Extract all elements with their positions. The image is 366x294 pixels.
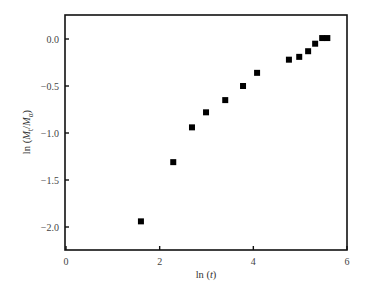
data-points <box>138 35 330 224</box>
data-point <box>138 218 144 224</box>
x-tick-label: 6 <box>345 256 350 267</box>
plot-frame <box>65 15 347 250</box>
data-point <box>305 48 311 54</box>
x-tick-label: 4 <box>251 256 256 267</box>
data-point <box>189 124 195 130</box>
x-axis: 0246 <box>64 246 350 267</box>
y-tick-label: −1.0 <box>41 128 59 139</box>
data-point <box>222 97 228 103</box>
data-point <box>324 35 330 41</box>
data-point <box>254 70 260 76</box>
y-tick-label: −2.0 <box>41 222 59 233</box>
x-tick-label: 2 <box>157 256 162 267</box>
x-tick-label: 0 <box>64 256 69 267</box>
y-tick-label: −1.5 <box>41 175 59 186</box>
data-point <box>203 109 209 115</box>
data-point <box>312 41 318 47</box>
y-tick-label: 0.0 <box>47 34 60 45</box>
x-axis-label: ln (t) <box>196 269 217 281</box>
y-tick-label: −0.5 <box>41 81 59 92</box>
data-point <box>240 83 246 89</box>
y-axis-label: ln (Mt/Mα) <box>21 109 35 154</box>
data-point <box>170 159 176 165</box>
data-point <box>286 57 292 63</box>
scatter-chart: 0246 0.0−0.5−1.0−1.5−2.0 ln (t) ln (Mt/M… <box>0 0 366 294</box>
data-point <box>296 54 302 60</box>
data-point <box>319 35 325 41</box>
